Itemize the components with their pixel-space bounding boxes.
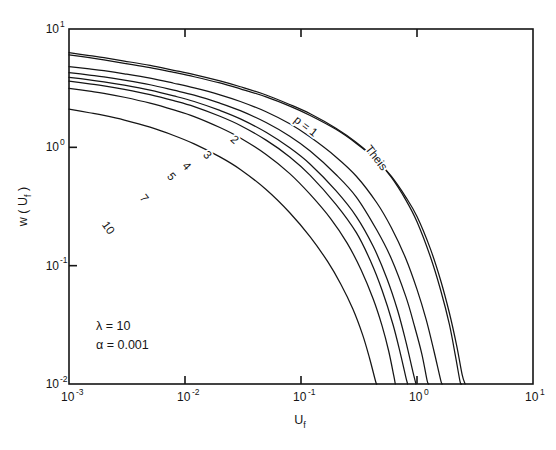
chart-page: TheisTheisp = 1p = 122334455771010 10-31… — [0, 0, 556, 450]
x-tick-label-mantissa: 10 — [409, 390, 423, 404]
x-tick-label-exponent: -2 — [192, 387, 200, 397]
y-tick-label-exponent: -1 — [60, 255, 68, 265]
x-tick-label-mantissa: 10 — [293, 390, 307, 404]
figure-background — [0, 0, 556, 450]
y-tick-label-exponent: -2 — [60, 374, 68, 384]
annotation-alpha: α = 0.001 — [96, 338, 149, 352]
type-curve-figure: TheisTheisp = 1p = 122334455771010 10-31… — [0, 0, 556, 450]
x-tick-label-mantissa: 10 — [525, 390, 539, 404]
x-tick-label-exponent: -3 — [76, 387, 84, 397]
x-tick-label-exponent: -1 — [308, 387, 316, 397]
y-tick-label-mantissa: 10 — [46, 259, 60, 273]
annotation-lambda: λ = 10 — [96, 319, 130, 333]
x-tick-label-mantissa: 10 — [177, 390, 191, 404]
x-tick-label-exponent: 0 — [424, 387, 429, 397]
x-tick-label-mantissa: 10 — [61, 390, 75, 404]
y-tick-label-mantissa: 10 — [46, 377, 60, 391]
y-tick-label-mantissa: 10 — [46, 140, 60, 154]
y-tick-label-mantissa: 10 — [46, 22, 60, 36]
y-tick-label-exponent: 1 — [60, 19, 65, 29]
y-tick-label-exponent: 0 — [60, 137, 65, 147]
x-tick-label-exponent: 1 — [540, 387, 545, 397]
